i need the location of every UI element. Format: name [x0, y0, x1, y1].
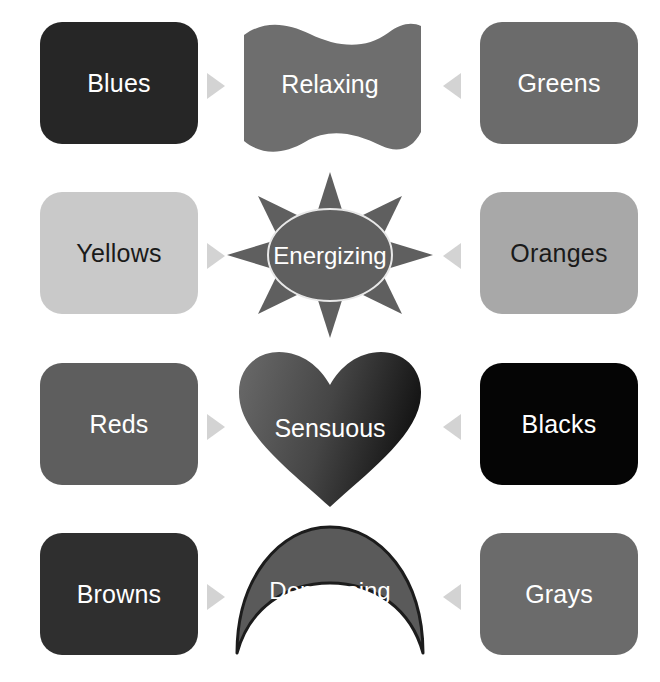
color-chip-label: Greens	[517, 71, 600, 96]
color-chip-label: Reds	[89, 412, 148, 437]
arrow-left-icon	[443, 414, 461, 440]
color-chip-yellows[interactable]: Yellows	[40, 192, 198, 314]
mood-shape-relaxing[interactable]: Relaxing	[225, 0, 435, 170]
color-chip-label: Oranges	[510, 241, 607, 266]
arrow-left-icon	[443, 584, 461, 610]
mood-shape-label: Depressing	[225, 579, 435, 603]
color-chip-label: Blues	[87, 71, 151, 96]
mood-shape-energizing[interactable]: Energizing	[225, 170, 435, 340]
color-chip-blacks[interactable]: Blacks	[480, 363, 638, 485]
arrow-right-icon	[207, 584, 225, 610]
arrow-right-icon	[207, 243, 225, 269]
color-chip-greens[interactable]: Greens	[480, 22, 638, 144]
mood-shape-label: Relaxing	[225, 72, 435, 97]
mood-shape-label: Sensuous	[225, 416, 435, 441]
diagram-row-energizing: Yellows Energizing Orange	[0, 170, 660, 340]
mood-shape-depressing[interactable]: Depressing	[225, 511, 435, 681]
arrow-left-icon	[443, 243, 461, 269]
diagram-row-depressing: Browns Depressing Grays	[0, 511, 660, 681]
color-mood-diagram: Blues Relaxing Greens Yellows	[0, 0, 660, 682]
color-chip-reds[interactable]: Reds	[40, 363, 198, 485]
color-chip-label: Grays	[525, 582, 593, 607]
arrow-right-icon	[207, 414, 225, 440]
mood-shape-sensuous[interactable]: Sensuous	[225, 341, 435, 511]
diagram-row-relaxing: Blues Relaxing Greens	[0, 0, 660, 170]
color-chip-blues[interactable]: Blues	[40, 22, 198, 144]
arrow-left-icon	[443, 73, 461, 99]
color-chip-browns[interactable]: Browns	[40, 533, 198, 655]
arrow-right-icon	[207, 73, 225, 99]
color-chip-label: Browns	[77, 582, 162, 607]
diagram-row-sensuous: Reds Sensuous Blacks	[0, 341, 660, 511]
color-chip-oranges[interactable]: Oranges	[480, 192, 638, 314]
color-chip-label: Blacks	[522, 412, 597, 437]
color-chip-grays[interactable]: Grays	[480, 533, 638, 655]
mood-shape-label: Energizing	[225, 244, 435, 268]
color-chip-label: Yellows	[76, 241, 161, 266]
